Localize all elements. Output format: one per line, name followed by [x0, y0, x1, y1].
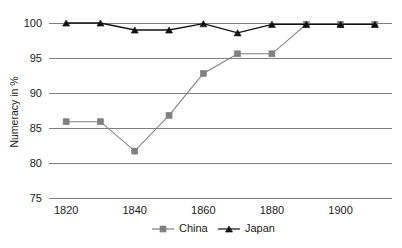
data-point-china-1840 [132, 148, 138, 154]
numeracy-line-chart: 7580859095100 18201840186018801900 Numer… [0, 0, 402, 248]
data-point-china-1880 [269, 51, 275, 57]
data-point-china-1850 [166, 112, 172, 118]
y-tick-label: 95 [30, 52, 42, 64]
data-point-china-1830 [97, 119, 103, 125]
x-tick-label: 1900 [328, 204, 352, 216]
legend-label-japan: Japan [245, 222, 275, 234]
y-axis-title: Numeracy in % [8, 76, 20, 147]
y-tick-label: 80 [30, 157, 42, 169]
y-tick-label: 85 [30, 122, 42, 134]
x-tick-label: 1840 [123, 204, 147, 216]
y-tick-label: 90 [30, 87, 42, 99]
chart-plot-area: 7580859095100 18201840186018801900 Numer… [0, 0, 402, 248]
y-tick-label: 75 [30, 192, 42, 204]
data-point-china-1870 [235, 51, 241, 57]
y-tick-label: 100 [24, 17, 42, 29]
legend-label-china: China [179, 222, 209, 234]
legend-marker-china [160, 226, 166, 232]
x-tick-label: 1860 [191, 204, 215, 216]
x-tick-label: 1880 [260, 204, 284, 216]
data-point-china-1860 [200, 70, 206, 76]
x-tick-label: 1820 [54, 204, 78, 216]
data-point-china-1820 [63, 119, 69, 125]
